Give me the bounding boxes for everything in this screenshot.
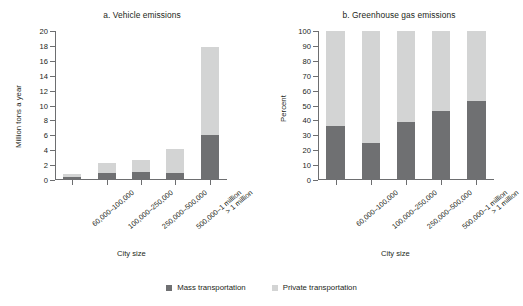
bar-segment-b-0-mass: [326, 126, 344, 180]
bar-segment-b-1-private: [362, 31, 380, 143]
y-tick-b-8: [313, 61, 318, 62]
x-tick-a-4: [210, 180, 211, 185]
y-tick-a-9: [50, 46, 55, 47]
y-tick-a-10: [50, 31, 55, 32]
chart-title-b: b. Greenhouse gas emissions: [261, 10, 523, 20]
bar-segment-a-3-private: [166, 149, 184, 173]
y-axis-line-a: [55, 31, 56, 180]
bar-b-4: [467, 31, 485, 180]
x-tick-a-3: [175, 180, 176, 185]
y-tick-label-b-7: 70: [303, 71, 311, 80]
figure-legend: Mass transportation Private transportati…: [0, 283, 523, 292]
legend-item-mass-transportation: Mass transportation: [166, 283, 245, 292]
y-axis-label-b: Percent: [279, 95, 288, 122]
y-tick-b-10: [313, 31, 318, 32]
chart-title-a: a. Vehicle emissions: [0, 10, 262, 20]
legend-label-mass-transportation: Mass transportation: [177, 283, 245, 292]
y-tick-label-b-2: 20: [303, 146, 311, 155]
y-tick-a-3: [50, 135, 55, 136]
y-tick-label-b-3: 30: [303, 131, 311, 140]
x-tick-b-2: [406, 180, 407, 185]
legend-item-private-transportation: Private transportation: [272, 283, 357, 292]
y-tick-label-a-0: 0: [44, 176, 48, 185]
bar-segment-a-3-mass: [166, 173, 184, 180]
bar-segment-a-2-private: [132, 160, 150, 172]
y-tick-a-8: [50, 61, 55, 62]
bar-segment-a-1-mass: [98, 173, 116, 180]
y-tick-a-5: [50, 106, 55, 107]
x-tick-a-1: [107, 180, 108, 185]
bar-segment-b-3-mass: [432, 111, 450, 180]
x-tick-b-0: [336, 180, 337, 185]
bar-segment-a-4-private: [201, 47, 219, 135]
y-tick-a-1: [50, 165, 55, 166]
bar-segment-a-1-private: [98, 163, 116, 173]
y-axis-line-b: [318, 31, 319, 180]
x-axis-label-a: City size: [117, 249, 146, 258]
y-tick-b-2: [313, 150, 318, 151]
y-tick-label-b-8: 80: [303, 56, 311, 65]
y-tick-b-9: [313, 46, 318, 47]
y-tick-b-1: [313, 165, 318, 166]
y-tick-b-0: [313, 180, 318, 181]
y-tick-label-b-1: 10: [303, 161, 311, 170]
y-tick-label-a-1: 2: [44, 161, 48, 170]
y-tick-label-b-6: 60: [303, 86, 311, 95]
y-tick-label-a-10: 20: [40, 27, 48, 36]
y-tick-label-b-0: 0: [307, 176, 311, 185]
y-tick-label-a-5: 10: [40, 101, 48, 110]
y-tick-label-b-5: 50: [303, 101, 311, 110]
plot-area-a: 02468101214161820: [55, 31, 227, 180]
y-axis-label-a: Million tons a year: [14, 85, 23, 148]
y-tick-a-6: [50, 91, 55, 92]
x-tick-b-4: [476, 180, 477, 185]
plot-area-b: 0102030405060708090100: [318, 31, 494, 180]
bar-segment-b-4-private: [467, 31, 485, 101]
chart-panel-greenhouse-gas-emissions: b. Greenhouse gas emissions Percent City…: [261, 0, 523, 270]
bar-segment-b-3-private: [432, 31, 450, 111]
x-tick-a-2: [141, 180, 142, 185]
y-tick-label-a-3: 6: [44, 131, 48, 140]
y-tick-label-a-8: 16: [40, 56, 48, 65]
y-tick-label-a-2: 4: [44, 146, 48, 155]
x-tick-a-0: [72, 180, 73, 185]
bar-segment-a-2-mass: [132, 172, 150, 180]
legend-label-private-transportation: Private transportation: [283, 283, 357, 292]
bar-a-3: [166, 149, 184, 180]
square-swatch-icon: [166, 285, 172, 291]
bar-a-4: [201, 47, 219, 180]
y-tick-label-b-9: 90: [303, 41, 311, 50]
bar-b-1: [362, 31, 380, 180]
y-tick-label-b-10: 100: [298, 27, 311, 36]
bar-a-2: [132, 160, 150, 180]
x-tick-b-1: [371, 180, 372, 185]
y-tick-b-7: [313, 76, 318, 77]
y-tick-label-a-9: 18: [40, 41, 48, 50]
y-tick-b-4: [313, 120, 318, 121]
y-tick-a-2: [50, 150, 55, 151]
bar-a-1: [98, 163, 116, 180]
y-tick-label-b-4: 40: [303, 116, 311, 125]
y-tick-label-a-4: 8: [44, 116, 48, 125]
bar-segment-a-4-mass: [201, 135, 219, 180]
bar-b-3: [432, 31, 450, 180]
bar-segment-b-2-private: [397, 31, 415, 122]
stacked-bar-figure: a. Vehicle emissions Million tons a year…: [0, 0, 523, 306]
chart-panel-vehicle-emissions: a. Vehicle emissions Million tons a year…: [0, 0, 262, 270]
y-tick-a-0: [50, 180, 55, 181]
y-tick-label-a-6: 12: [40, 86, 48, 95]
y-tick-a-4: [50, 120, 55, 121]
y-tick-b-6: [313, 91, 318, 92]
y-tick-a-7: [50, 76, 55, 77]
bar-segment-b-1-mass: [362, 143, 380, 180]
y-tick-label-a-7: 14: [40, 71, 48, 80]
bar-segment-b-0-private: [326, 31, 344, 126]
square-swatch-icon: [272, 285, 278, 291]
x-axis-label-b: City size: [381, 249, 410, 258]
y-tick-b-5: [313, 106, 318, 107]
x-tick-b-3: [441, 180, 442, 185]
bar-b-2: [397, 31, 415, 180]
y-tick-b-3: [313, 135, 318, 136]
bar-segment-b-2-mass: [397, 122, 415, 180]
bar-b-0: [326, 31, 344, 180]
